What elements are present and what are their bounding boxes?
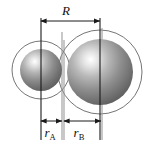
label-rA-subscript: A [49,132,56,142]
diagram-canvas: R r A r B [0,0,153,143]
sphere-diagram-figure: R r A r B [0,0,153,143]
label-rB-group: r B [73,125,84,142]
label-R: R [61,3,70,18]
label-rA-group: r A [44,125,56,142]
label-rB-subscript: B [79,132,85,142]
